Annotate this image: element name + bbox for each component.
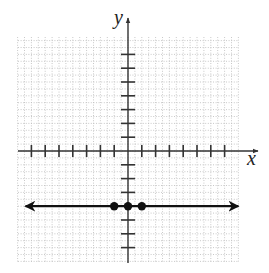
y-axis-label: y bbox=[114, 7, 123, 27]
x-axis-label: x bbox=[247, 148, 256, 168]
plotted-point bbox=[110, 202, 118, 210]
plotted-point bbox=[138, 202, 146, 210]
coordinate-plane bbox=[0, 0, 269, 273]
plotted-point bbox=[124, 202, 132, 210]
